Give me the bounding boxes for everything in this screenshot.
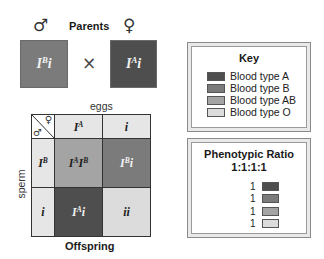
swatch-a-icon	[207, 72, 225, 81]
male-symbol-icon: ♂	[33, 17, 48, 34]
corner-female-symbol-icon: ♀	[45, 115, 52, 125]
ratio-swatch-a-icon	[262, 182, 279, 191]
cross-icon: ×	[82, 55, 96, 72]
offspring-cell-a: IAi	[55, 188, 103, 236]
corner-male-symbol-icon: ♂	[33, 128, 42, 138]
ratio-count-o: 1	[250, 218, 260, 229]
key-box: Key Blood type A Blood type B Blood type…	[187, 42, 311, 132]
swatch-o-icon	[207, 108, 225, 117]
ratio-item-ab: 1	[250, 205, 284, 218]
ratio-item-a: 1	[250, 180, 284, 193]
key-label-ab: Blood type AB	[230, 94, 296, 106]
key-label-b: Blood type B	[230, 82, 290, 94]
ratio-swatch-b-icon	[262, 194, 279, 203]
key-item-ab: Blood type AB	[207, 94, 296, 106]
offspring-cell-b: IBi	[103, 139, 150, 188]
mother-genotype: IAi	[126, 57, 141, 71]
ratio-item-o: 1	[250, 218, 284, 231]
sperm-label: sperm	[15, 166, 27, 202]
punnett-square: ♀ ♂ IA i IB IAIB IBi i IAi	[31, 114, 151, 237]
ratio-value: 1:1:1:1	[192, 161, 306, 173]
ratio-swatch-o-icon	[262, 219, 279, 228]
father-genotype: IBi	[36, 57, 51, 71]
sperm-allele-header-1: IB	[32, 139, 55, 188]
ratio-count-b: 1	[250, 193, 260, 204]
ratio-item-b: 1	[250, 193, 284, 206]
offspring-label: Offspring	[65, 240, 115, 252]
offspring-cell-o: ii	[103, 188, 150, 236]
ratio-count-ab: 1	[250, 206, 260, 217]
egg-allele-header-2: i	[103, 115, 150, 139]
ratio-swatch-ab-icon	[262, 207, 279, 216]
egg-allele-header-1: IA	[55, 115, 103, 139]
sperm-allele-header-2: i	[32, 188, 55, 236]
eggs-label: eggs	[90, 100, 113, 112]
key-item-b: Blood type B	[207, 82, 296, 94]
key-title: Key	[192, 52, 306, 64]
parents-title: Parents	[69, 20, 109, 32]
key-label-a: Blood type A	[230, 70, 289, 82]
offspring-cell-ab: IAIB	[55, 139, 103, 188]
key-item-a: Blood type A	[207, 70, 296, 82]
key-list: Blood type A Blood type B Blood type AB …	[207, 70, 296, 118]
ratio-count-a: 1	[250, 181, 260, 192]
phenotypic-ratio-box: Phenotypic Ratio 1:1:1:1 1 1 1 1	[187, 138, 311, 238]
father-genotype-box: IBi	[20, 40, 68, 88]
punnett-corner: ♀ ♂	[32, 115, 55, 139]
swatch-ab-icon	[207, 96, 225, 105]
swatch-b-icon	[207, 84, 225, 93]
ratio-list: 1 1 1 1	[250, 180, 284, 230]
female-symbol-icon: ♀	[123, 17, 135, 34]
key-item-o: Blood type O	[207, 106, 296, 118]
mother-genotype-box: IAi	[110, 40, 157, 88]
ratio-title: Phenotypic Ratio	[192, 148, 306, 160]
key-label-o: Blood type O	[230, 106, 291, 118]
